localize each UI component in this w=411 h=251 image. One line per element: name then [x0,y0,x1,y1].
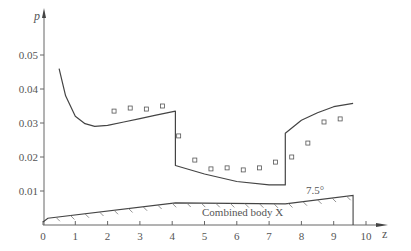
x-tick-label: 0 [40,230,46,242]
y-tick-label: 0.03 [19,117,39,129]
hatch-mark [172,203,176,207]
hatch-mark [85,214,89,218]
body-label: Combined body X [202,206,283,218]
pressure-distribution-chart: 0123456789100.010.020.030.040.05 p z Com… [0,0,411,251]
experimental-point-square [161,104,165,108]
hatch-mark [187,203,191,207]
experimental-point-square [225,166,229,170]
experimental-point-square [322,120,326,124]
angle-label: 7.5° [306,184,324,196]
x-tick-label: 5 [202,230,208,242]
hatch-mark [347,196,351,200]
experimental-point-square [257,166,261,170]
x-tick-label: 2 [105,230,111,242]
hatch-mark [288,204,292,208]
experimental-point-square [177,134,181,138]
data-series [59,69,353,185]
body-outline [43,195,353,225]
experimental-point-square [193,158,197,162]
hatch-mark [100,212,104,216]
experimental-point-square [112,109,116,113]
y-tick-label: 0.05 [19,49,39,61]
hatch-mark [129,209,133,213]
x-tick-label: 3 [137,230,143,242]
y-axis-label: p [33,9,40,23]
chart-svg: 0123456789100.010.020.030.040.05 p z Com… [0,0,411,251]
x-tick-label: 4 [169,230,175,242]
combined-body-profile [43,195,353,225]
experimental-point-square [306,141,310,145]
experimental-point-square [241,168,245,172]
experimental-point-square [128,106,132,110]
hatch-mark [303,202,307,206]
axis-labels: p z Combined body X 7.5° [33,9,387,241]
experimental-point-square [144,107,148,111]
y-tick-label: 0.02 [19,151,38,163]
theory-curve [59,69,353,185]
hatch-mark [143,207,147,211]
x-axis-label: z [382,227,387,241]
x-tick-label: 9 [331,230,337,242]
hatch-mark [318,200,322,204]
hatch-mark [70,215,74,219]
experimental-point-square [290,155,294,159]
y-tick-label: 0.04 [19,83,39,95]
hatch-mark [56,217,60,221]
hatch-mark [332,198,336,202]
hatch-mark [158,205,162,209]
y-tick-label: 0.01 [19,185,38,197]
x-tick-label: 1 [73,230,79,242]
x-tick-label: 10 [361,230,373,242]
hatch-mark [114,210,118,214]
x-tick-label: 7 [266,230,272,242]
x-tick-label: 6 [234,230,240,242]
experimental-point-square [338,117,342,121]
experimental-point-square [274,160,278,164]
y-axis-arrow-icon [42,8,46,18]
experimental-point-square [209,167,213,171]
x-tick-label: 8 [299,230,305,242]
